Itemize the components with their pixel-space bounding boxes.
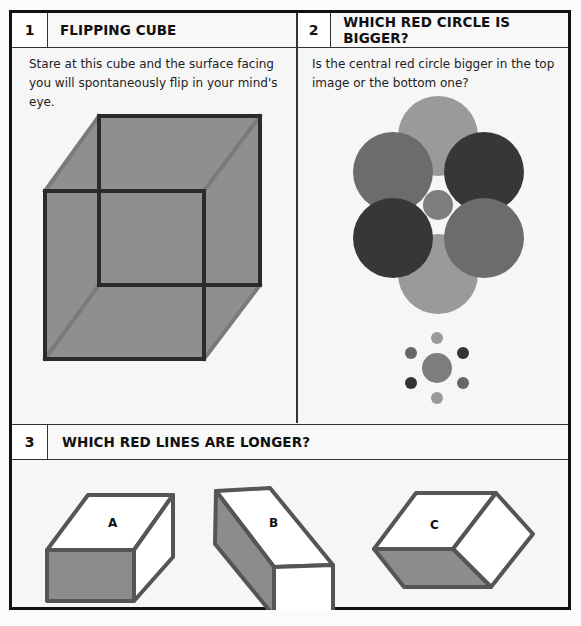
ebbinghaus-large-surround-figure xyxy=(302,88,562,328)
illusion-sheet: 1 FLIPPING CUBE 2 WHICH RED CIRCLE IS BI… xyxy=(9,10,571,610)
box-b xyxy=(215,488,333,610)
box-b-label: B xyxy=(269,516,278,530)
box-a-label: A xyxy=(108,516,118,530)
box-c-label: C xyxy=(430,518,439,532)
panel-2-title: WHICH RED CIRCLE IS BIGGER? xyxy=(331,14,568,46)
boxes-figure: A B C xyxy=(12,460,568,610)
panel-2-number: 2 xyxy=(297,13,331,47)
panel-3-number: 3 xyxy=(12,425,48,459)
box-a xyxy=(47,495,173,601)
box-c xyxy=(374,493,533,587)
panel-2-header: 2 WHICH RED CIRCLE IS BIGGER? xyxy=(297,13,568,48)
necker-cube-figure xyxy=(12,13,302,423)
ebbinghaus-small-surround-figure xyxy=(392,323,482,408)
panel-3-header: 3 WHICH RED LINES ARE LONGER? xyxy=(12,424,568,460)
panel-3-title: WHICH RED LINES ARE LONGER? xyxy=(48,434,310,450)
